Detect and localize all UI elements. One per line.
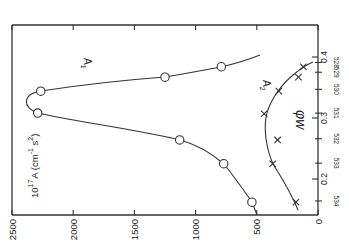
curve-a1 [26, 55, 260, 215]
data-point-circle [248, 198, 256, 206]
data-point-circle [175, 136, 183, 144]
value-tick-label: 1500 [129, 219, 140, 240]
svg-text:φw: φw [293, 110, 309, 130]
plot-frame [12, 25, 318, 215]
data-point-cross [276, 88, 282, 94]
phi-axis-labels: 0.20.30.4 [319, 51, 329, 185]
value-axis-title: 1017A (cm-1 s2) [27, 134, 40, 198]
svg-text:A2: A2 [259, 80, 272, 91]
data-point-circle [217, 63, 225, 71]
value-tick-label: 1000 [190, 219, 201, 240]
wavelength-axis-labels: 528529530531532533534 [333, 57, 340, 207]
value-axis-labels: 25002000150010005000 [7, 219, 324, 240]
series-a2-label: A2 [259, 80, 272, 91]
data-point-cross [270, 161, 276, 167]
value-axis-ticks [12, 25, 318, 215]
phi-tick-label: 0.4 [319, 51, 329, 63]
svg-text:1017A (cm-1 s2): 1017A (cm-1 s2) [27, 134, 40, 198]
wavelength-tick-label: 531 [333, 108, 340, 119]
phi-axis-title: φw [293, 110, 309, 130]
wavelength-tick-label: 533 [333, 158, 340, 169]
data-point-circle [37, 87, 45, 95]
data-point-cross [274, 137, 280, 143]
data-point-cross [300, 64, 306, 70]
wavelength-tick-label: 534 [333, 196, 340, 207]
data-point-cross [295, 74, 301, 80]
value-tick-label: 2000 [68, 219, 79, 240]
wavelength-tick-label: 532 [333, 133, 340, 144]
data-point-circle [34, 109, 42, 117]
chart: 25002000150010005000 0.20.30.4 528529530… [0, 0, 349, 251]
phi-tick-label: 0.2 [319, 173, 329, 185]
svg-text:A1: A1 [80, 58, 93, 69]
series-a1-markers [34, 63, 257, 207]
value-tick-label: 2500 [7, 219, 18, 240]
data-point-circle [220, 160, 228, 168]
phi-axis-ticks [312, 57, 318, 179]
value-tick-label: 0 [313, 219, 324, 224]
wavelength-tick-label: 530 [333, 84, 340, 95]
wavelength-tick-label: 529 [333, 67, 340, 78]
data-point-circle [161, 73, 169, 81]
series-a1-label: A1 [80, 58, 93, 69]
value-tick-label: 500 [251, 219, 262, 235]
